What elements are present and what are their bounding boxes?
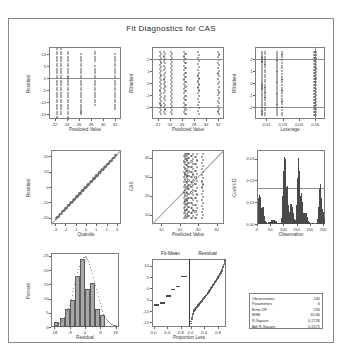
fit-mean-residual-xtick: 0.8 xyxy=(178,330,184,335)
rstudent-vs-predicted-ytick-mark xyxy=(150,95,152,96)
fit-mean-residual-xtick-mark xyxy=(191,327,192,329)
residual-vs-predicted-ytick: -5 xyxy=(42,88,46,93)
rstudent-vs-predicted-ytick-mark xyxy=(150,83,152,84)
rstudent-vs-leverage-xtick: 0.04 xyxy=(295,122,303,127)
fit-mean-residual-ytick: 10 xyxy=(144,263,149,268)
cooks-d-xtick: 200 xyxy=(306,227,313,232)
density-curve-point xyxy=(99,300,100,301)
residual-vs-predicted-ytick-mark xyxy=(47,54,49,55)
cooks-d-xtick: 150 xyxy=(293,227,300,232)
qq-plot-xtick: -3 xyxy=(53,227,57,232)
rstudent-vs-leverage-ytick-mark xyxy=(253,95,255,96)
qq-plot-panel: 20100-10-20-3-2-10123ResidualQuantile xyxy=(23,144,126,244)
data-point xyxy=(198,89,200,91)
data-point xyxy=(196,214,198,216)
data-point xyxy=(194,163,196,165)
rstudent-vs-leverage-xtick-mark xyxy=(283,119,284,121)
density-curve-point xyxy=(98,296,99,297)
data-point xyxy=(281,84,283,86)
fit-mean-residual-xtick: 0.4 xyxy=(164,330,170,335)
observed-vs-predicted-ytick-mark xyxy=(150,177,152,178)
residual-histogram-xtick-mark xyxy=(54,327,55,329)
density-curve-point xyxy=(65,315,66,316)
density-curve-point xyxy=(100,303,101,304)
cooks-d-panel: 0.030.020.010.00050100150200250Cook's DO… xyxy=(229,144,333,244)
residual-vs-predicted-ytick: -10 xyxy=(40,100,46,105)
data-point xyxy=(187,170,189,172)
page-title: Fit Diagnostics for CAS xyxy=(9,24,333,33)
stat-label: Parameters xyxy=(252,301,272,306)
data-point xyxy=(187,166,189,168)
data-point xyxy=(190,171,192,173)
data-point xyxy=(190,176,192,178)
data-point xyxy=(202,196,204,198)
qq-plot-xtick-mark xyxy=(65,224,66,226)
cooks-d-ytick: 0.00 xyxy=(246,222,254,227)
cooks-d-xtick: 0 xyxy=(256,227,258,232)
residual-histogram-xtick-mark xyxy=(116,327,117,329)
data-point xyxy=(196,193,198,195)
data-point xyxy=(202,183,204,185)
data-point xyxy=(192,194,194,196)
data-point xyxy=(197,69,199,71)
data-point xyxy=(192,163,194,165)
fit-mean-residual-panel: Fit-MeanResidual1050-5-10-150.00.40.80.0… xyxy=(126,247,238,347)
qq-plot-xtick-mark xyxy=(107,224,108,226)
density-curve-point xyxy=(72,295,73,296)
data-point xyxy=(197,86,199,88)
stat-value: 0.2571 xyxy=(308,324,320,329)
data-point xyxy=(194,210,196,212)
residual-quantile-point xyxy=(191,317,193,319)
rstudent-vs-predicted-xtick-mark xyxy=(158,119,159,121)
data-point xyxy=(197,80,199,82)
data-point xyxy=(194,176,196,178)
residual-vs-predicted-xtick: 30 xyxy=(101,122,106,127)
stat-value: 6 xyxy=(318,301,320,306)
data-point xyxy=(194,204,196,206)
residual-histogram-xtick: 0 xyxy=(84,330,86,335)
data-point xyxy=(198,72,200,74)
residual-vs-predicted-xtick: 32 xyxy=(113,122,118,127)
data-point xyxy=(315,108,317,110)
data-point xyxy=(197,57,199,59)
observed-vs-predicted-x-axis-label: Predicted Value xyxy=(152,232,224,237)
fit-mean-step xyxy=(154,304,159,306)
data-point xyxy=(202,153,204,155)
residual-histogram-ytick: 15 xyxy=(44,282,49,287)
cooks-d-xtick: 100 xyxy=(280,227,287,232)
density-curve-point xyxy=(69,305,70,306)
fit-mean-residual-xtick-mark xyxy=(218,327,219,329)
data-point xyxy=(192,209,194,211)
data-point xyxy=(197,51,199,53)
rstudent-vs-predicted-xtick: 32 xyxy=(216,122,221,127)
rstudent-vs-predicted-ytick-mark xyxy=(150,71,152,72)
qq-plot-xtick: 3 xyxy=(116,227,118,232)
qq-plot-xtick-mark xyxy=(86,224,87,226)
data-point xyxy=(201,180,203,182)
data-point xyxy=(187,162,189,164)
data-point xyxy=(198,54,200,56)
qq-plot-ytick-mark xyxy=(49,156,51,157)
data-point xyxy=(187,175,189,177)
data-point xyxy=(281,73,283,75)
fit-mean-residual-ytick-mark xyxy=(150,288,152,289)
residual-vs-predicted-ytick-mark xyxy=(47,102,49,103)
data-point xyxy=(192,179,194,181)
qq-plot-ytick: 10 xyxy=(44,169,49,174)
fit-statistics-box: Observations240Parameters6Error DF234MSE… xyxy=(249,293,323,329)
density-curve-point xyxy=(95,285,96,286)
residual-vs-predicted-ytick: -15 xyxy=(40,112,46,117)
data-point xyxy=(201,186,203,188)
residual-histogram-xtick-mark xyxy=(85,327,86,329)
residual-vs-predicted-xtick-mark xyxy=(103,119,104,121)
data-point xyxy=(190,202,192,204)
data-point xyxy=(192,153,194,155)
stat-label: R-Square xyxy=(252,318,269,323)
stat-label: Adj R-Square xyxy=(252,324,275,329)
residual-vs-predicted-xtick: 28 xyxy=(89,122,94,127)
observed-vs-predicted-panel: 4030201010203040CASPredicted Value xyxy=(126,144,229,244)
data-point xyxy=(198,66,200,68)
fit-mean-residual-ytick-mark xyxy=(150,277,152,278)
fit-mean-residual-ytick-mark xyxy=(150,266,152,267)
rstudent-vs-predicted-y-axis-label: RStudent xyxy=(129,74,134,93)
